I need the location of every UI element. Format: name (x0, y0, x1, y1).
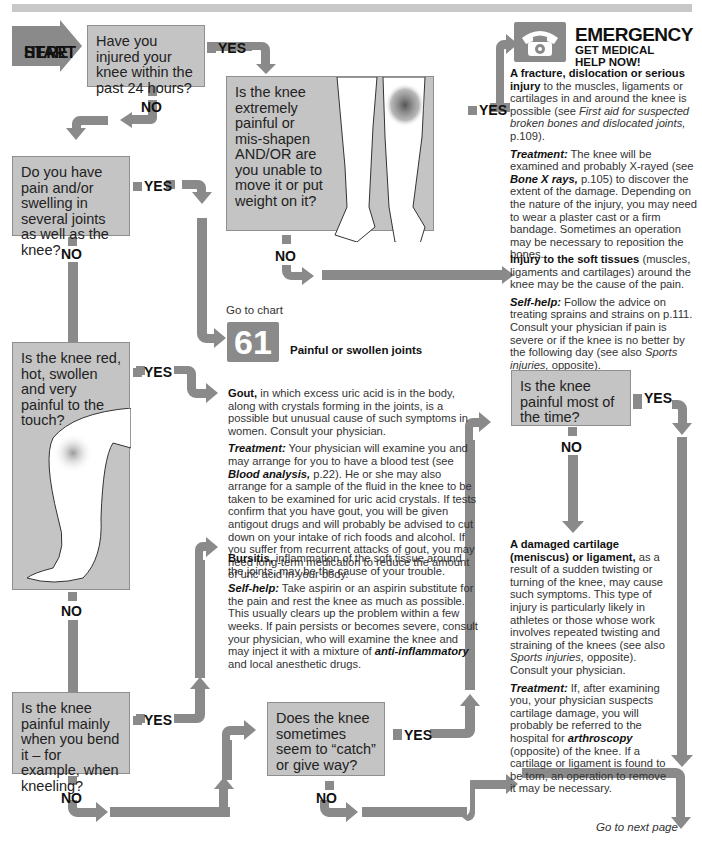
no-label: NO (561, 439, 582, 455)
yes-label: YES (207, 40, 246, 56)
no-label: NO (141, 99, 162, 115)
yes-label: YES (468, 102, 507, 118)
go-to-next-page-link[interactable]: Go to next page (596, 821, 678, 833)
question-text: Have you injured your knee within the pa… (96, 33, 193, 96)
outcome-cartilage: A damaged cartilage (meniscus) or ligame… (510, 538, 670, 800)
question-box-catch-give-way[interactable]: Does the knee sometimes seem to “catch” … (267, 702, 385, 776)
question-box-several-joints[interactable]: Do you have pain and/or swelling in seve… (12, 156, 130, 236)
question-text: Is the knee extremely painful or mis-sha… (235, 85, 325, 209)
no-label: NO (275, 248, 296, 264)
question-text: Is the knee painful most of the time? (520, 378, 614, 425)
yes-label: YES (133, 178, 172, 194)
no-label: NO (61, 246, 82, 262)
question-box-red-hot-swollen[interactable]: Is the knee red, hot, swollen and very p… (12, 342, 130, 590)
no-label: NO (61, 790, 82, 806)
emergency-title: EMERGENCY (575, 24, 693, 46)
goto-chart-label: Go to chart (226, 304, 283, 316)
yes-label: YES (133, 364, 172, 380)
question-text: Does the knee sometimes seem to “catch” … (276, 710, 376, 773)
bent-leg-illustration (13, 408, 131, 590)
question-box-painful-most-time[interactable]: Is the knee painful most of the time? (511, 370, 631, 426)
telephone-icon (514, 22, 566, 62)
chart-61-link[interactable]: 61 (227, 322, 279, 362)
start-line2: HERE (24, 44, 68, 61)
no-label: NO (316, 790, 337, 806)
chart-61-title: Painful or swollen joints (290, 344, 422, 356)
question-box-injured-24h[interactable]: Have you injured your knee within the pa… (87, 25, 205, 87)
emergency-subtitle: GET MEDICALHELP NOW! (575, 44, 654, 68)
outcome-fracture: A fracture, dislocation or serious injur… (510, 67, 698, 266)
question-box-painful-bend[interactable]: Is the knee painful mainly when you bend… (12, 692, 130, 774)
outcome-bursitis: Bursitis, inflammation of the soft tissu… (228, 552, 478, 675)
no-label: NO (61, 603, 82, 619)
question-box-extremely-painful[interactable]: Is the knee extremely painful or mis-sha… (226, 76, 434, 231)
yes-label: YES (133, 712, 172, 728)
outcome-soft-tissue: Injury to the soft tissues (muscles, lig… (510, 253, 700, 376)
legs-illustration (327, 77, 435, 242)
yes-label: YES (633, 390, 672, 406)
yes-label: YES (393, 727, 432, 743)
